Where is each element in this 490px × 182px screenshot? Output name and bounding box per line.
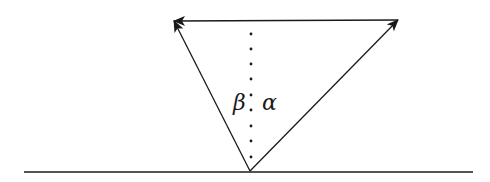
alpha-label: α (262, 90, 277, 115)
arrow-top-right-to-top-left (174, 20, 398, 21)
dotted-normal-line (250, 33, 253, 159)
beta-label: β (232, 90, 246, 115)
vector-triangle-diagram: β α (0, 0, 490, 182)
